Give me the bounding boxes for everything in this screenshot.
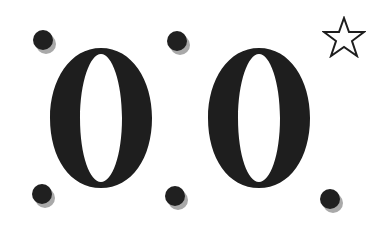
dot-bottom-left [32,184,52,204]
right-digit-char: 0 [259,190,260,191]
left-digit-zero-shape [48,46,154,190]
dot-bottom-middle [165,186,185,206]
dot-top-left [33,30,53,50]
star-icon-shape [322,16,366,58]
right-digit-zero-shape [206,46,312,190]
left-digit-char: 0 [101,190,102,191]
trailing-period-char: . [320,189,321,190]
figure-canvas: 0 0 . ☆ [0,0,387,226]
right-digit-zero: 0 [206,46,312,190]
star-outline-icon: ☆ [322,16,366,58]
star-symbol-char: ☆ [366,16,367,17]
dot-top-middle [167,31,187,51]
left-digit-zero: 0 [48,46,154,190]
trailing-period-dot: . [320,189,340,209]
